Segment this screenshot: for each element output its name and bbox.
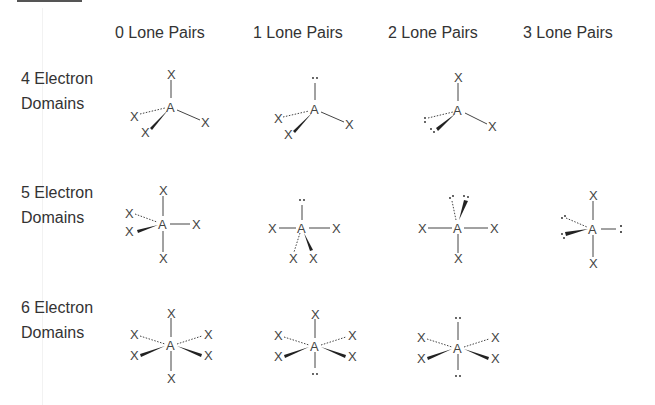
- ligand-x: X: [418, 221, 427, 236]
- ligand-x: X: [589, 188, 598, 203]
- ligand-x: X: [284, 127, 293, 142]
- ligand-x: X: [289, 251, 298, 266]
- ligand-x: X: [204, 348, 213, 363]
- ligand-x: X: [417, 351, 426, 366]
- ligand-x: X: [274, 328, 283, 343]
- ligand-x: X: [348, 328, 357, 343]
- central-atom-a: A: [158, 217, 167, 232]
- ligand-x: X: [491, 351, 500, 366]
- molecule-tetrahedral: X A X X X: [130, 67, 210, 140]
- ligand-x: X: [204, 327, 213, 342]
- ligand-x: X: [125, 206, 134, 221]
- central-atom-a: A: [310, 102, 319, 117]
- ligand-x: X: [159, 183, 168, 198]
- ligand-x: X: [454, 251, 463, 266]
- ligand-x: X: [130, 109, 139, 124]
- ligand-x: X: [167, 67, 176, 82]
- molecule-square-planar: A X X X X: [417, 317, 500, 377]
- ligand-x: X: [125, 224, 134, 239]
- central-atom-a: A: [166, 338, 175, 353]
- central-atom-a: A: [453, 103, 462, 118]
- molecule-square-pyramidal: X A X X X X: [274, 307, 357, 375]
- ligand-x: X: [488, 119, 497, 134]
- vsepr-diagram-grid: .b { stroke: #444; stroke-width: 1; fill…: [0, 0, 655, 405]
- molecule-trigonal-pyramidal: A X X X: [274, 77, 354, 142]
- ligand-x: X: [348, 349, 357, 364]
- ligand-x: X: [130, 327, 139, 342]
- molecule-trigonal-bipyramidal: X A X X X X: [125, 183, 201, 266]
- ligand-x: X: [490, 221, 499, 236]
- ligand-x: X: [167, 306, 176, 321]
- ligand-x: X: [332, 221, 341, 236]
- ligand-x: X: [309, 251, 318, 266]
- molecule-t-shaped: X A X X: [418, 195, 499, 266]
- central-atom-a: A: [588, 222, 597, 237]
- ligand-x: X: [274, 349, 283, 364]
- ligand-x: X: [268, 221, 277, 236]
- ligand-x: X: [130, 348, 139, 363]
- molecule-octahedral: X A X X X X X: [130, 306, 213, 386]
- central-atom-a: A: [310, 339, 319, 354]
- central-atom-a: A: [453, 221, 462, 236]
- ligand-x: X: [141, 125, 150, 140]
- central-atom-a: A: [453, 341, 462, 356]
- molecule-seesaw: X A X X X: [268, 199, 341, 266]
- ligand-x: X: [491, 330, 500, 345]
- central-atom-a: A: [297, 221, 306, 236]
- molecule-linear: X A X: [561, 188, 622, 271]
- central-atom-a: A: [166, 100, 175, 115]
- ligand-x: X: [311, 307, 320, 322]
- ligand-x: X: [159, 251, 168, 266]
- ligand-x: X: [192, 217, 201, 232]
- molecule-bent: X A X: [424, 70, 497, 134]
- ligand-x: X: [345, 117, 354, 132]
- ligand-x: X: [201, 115, 210, 130]
- ligand-x: X: [167, 371, 176, 386]
- ligand-x: X: [417, 330, 426, 345]
- ligand-x: X: [274, 111, 283, 126]
- ligand-x: X: [454, 70, 463, 85]
- ligand-x: X: [589, 256, 598, 271]
